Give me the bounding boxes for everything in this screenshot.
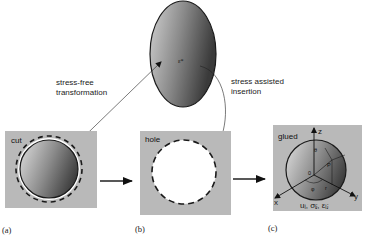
z-axis-label: z bbox=[318, 127, 322, 136]
x-axis-label: x bbox=[274, 198, 278, 207]
r-label: r bbox=[325, 185, 327, 191]
panel-a: cut bbox=[5, 131, 97, 208]
eigenstrain-label: ε* bbox=[178, 58, 184, 64]
origin-label: 0 bbox=[308, 170, 311, 176]
y-axis-label: y bbox=[354, 192, 358, 201]
panel-c-box-label: glued bbox=[278, 132, 298, 141]
field-variables-label: uᵢ, σᵢⱼ, εᵢⱼ bbox=[300, 201, 328, 210]
point-label: P bbox=[327, 162, 331, 168]
eshelby-inclusion-diagram: ε* stress-free transformation stress ass… bbox=[0, 0, 366, 241]
stress-assisted-label-2: insertion bbox=[231, 87, 261, 96]
cut-inclusion-sphere bbox=[20, 140, 78, 198]
phi-label: φ bbox=[311, 186, 315, 192]
stress-assisted-label-1: stress assisted bbox=[231, 77, 284, 86]
stress-free-label-2: transformation bbox=[56, 88, 107, 97]
inclusion-ellipse: ε* bbox=[150, 1, 216, 107]
stress-free-label-1: stress-free bbox=[56, 78, 94, 87]
hole-dashed-outline bbox=[152, 140, 216, 204]
panel-c-caption: (c) bbox=[268, 223, 278, 233]
panel-a-caption: (a) bbox=[2, 225, 12, 235]
panel-b-caption: (b) bbox=[135, 224, 145, 234]
panel-b: hole bbox=[140, 131, 231, 215]
theta-label: θ bbox=[314, 147, 317, 153]
panel-c: θ 0 P φ r z x y glued uᵢ, σᵢⱼ, εᵢⱼ bbox=[273, 125, 362, 211]
panel-b-box-label: hole bbox=[145, 135, 161, 144]
panel-a-box-label: cut bbox=[11, 136, 22, 145]
